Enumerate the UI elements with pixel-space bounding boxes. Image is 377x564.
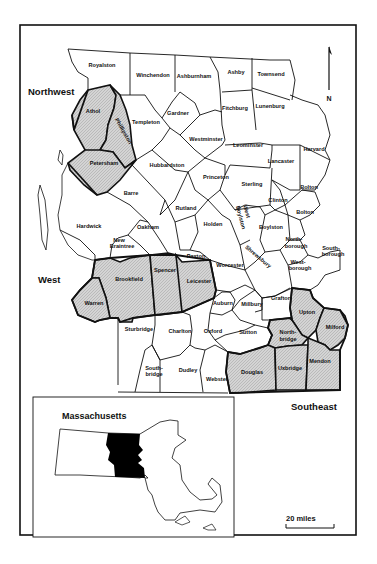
inset-title: Massachusetts bbox=[62, 411, 127, 421]
label-uxbridge: Uxbridge bbox=[278, 365, 302, 371]
label-harvard: Harvard bbox=[303, 146, 325, 152]
region-label-southeast: Southeast bbox=[291, 401, 338, 412]
label-leicester: Leicester bbox=[187, 278, 212, 284]
label-northborough-2: borough bbox=[285, 243, 308, 249]
label-milford: Milford bbox=[326, 324, 345, 330]
label-petersham: Petersham bbox=[90, 160, 119, 166]
label-auburn: Auburn bbox=[213, 300, 233, 306]
label-lunenburg: Lunenburg bbox=[255, 103, 285, 109]
region-label-west: West bbox=[38, 274, 61, 285]
label-douglas: Douglas bbox=[241, 369, 263, 375]
label-leominster: Leominster bbox=[233, 142, 264, 148]
label-fitchburg: Fitchburg bbox=[222, 105, 248, 111]
label-athol: Athol bbox=[86, 108, 101, 114]
label-dudley: Dudley bbox=[179, 367, 199, 373]
label-templeton: Templeton bbox=[132, 119, 160, 125]
label-spencer: Spencer bbox=[154, 267, 177, 273]
region-label-northwest: Northwest bbox=[28, 86, 75, 97]
label-oakham: Oakham bbox=[137, 224, 159, 230]
label-brookfield: Brookfield bbox=[115, 276, 143, 282]
label-webster: Webster bbox=[206, 376, 229, 382]
label-westborough-2: borough bbox=[289, 265, 312, 271]
label-shrewsbury: Shrewsbury bbox=[244, 244, 273, 270]
label-berlin: Bolton bbox=[296, 209, 314, 215]
label-paxton: Paxton bbox=[187, 253, 206, 259]
label-southbridge-2: bridge bbox=[145, 371, 162, 377]
shaded-towns bbox=[68, 85, 348, 393]
label-boylston: Boylston bbox=[259, 224, 284, 230]
north-label: N bbox=[326, 95, 331, 102]
scale-label: 20 miles bbox=[286, 514, 316, 523]
label-ashby: Ashby bbox=[227, 69, 245, 75]
label-sturbridge: Sturbridge bbox=[125, 326, 153, 332]
label-gardner: Gardner bbox=[167, 110, 190, 116]
label-clinton: Clinton bbox=[268, 197, 288, 203]
label-northbridge-1: North- bbox=[280, 329, 297, 335]
label-mendon: Mendon bbox=[309, 358, 331, 364]
label-northbridge-2: bridge bbox=[279, 336, 296, 342]
label-charlton: Charlton bbox=[169, 328, 193, 334]
label-upton: Upton bbox=[299, 309, 316, 315]
label-southborough-2: borough bbox=[322, 251, 345, 257]
label-barre: Barre bbox=[124, 190, 139, 196]
label-millbury: Millbury bbox=[241, 301, 263, 307]
label-bolton: Bolton bbox=[300, 184, 318, 190]
north-arrow-icon bbox=[329, 46, 332, 90]
label-northborough-1: North- bbox=[286, 236, 303, 242]
label-winchendon: Winchendon bbox=[136, 72, 170, 78]
label-lancaster: Lancaster bbox=[268, 158, 295, 164]
label-westminster: Westminster bbox=[189, 136, 223, 142]
label-princeton: Princeton bbox=[203, 174, 229, 180]
label-royalston: Royalston bbox=[88, 62, 116, 68]
worcester-county-map: Northwest West Southeast N Royalston Win… bbox=[0, 0, 377, 564]
label-holden: Holden bbox=[204, 221, 224, 227]
label-hardwick: Hardwick bbox=[77, 223, 103, 229]
quabbin-reservoir bbox=[38, 150, 63, 250]
label-sterling: Sterling bbox=[242, 181, 263, 187]
label-townsend: Townsend bbox=[257, 71, 285, 77]
label-ashburnham: Ashburnham bbox=[177, 73, 212, 79]
label-rutland: Rutland bbox=[176, 205, 197, 211]
label-sutton: Sutton bbox=[239, 329, 257, 335]
label-grafton: Grafton bbox=[271, 295, 292, 301]
label-hubbardston: Hubbardston bbox=[150, 162, 185, 168]
label-new-braintree-2: Braintree bbox=[110, 243, 135, 249]
label-worcester: Worcester bbox=[216, 262, 244, 268]
label-oxford: Oxford bbox=[204, 328, 223, 334]
label-warren: Warren bbox=[84, 300, 104, 306]
scale-bar bbox=[286, 524, 334, 528]
